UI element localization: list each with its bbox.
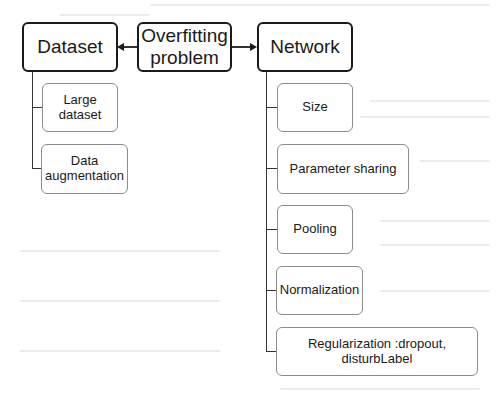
data-augmentation-label: Data augmentation xyxy=(45,154,124,184)
network-connector-3 xyxy=(266,229,277,230)
dataset-node: Dataset xyxy=(22,22,118,72)
dataset-trunk-line xyxy=(32,72,33,169)
network-connector-4 xyxy=(266,290,276,291)
parameter-sharing-node: Parameter sharing xyxy=(277,144,409,194)
network-connector-2 xyxy=(266,168,277,169)
network-connector-5 xyxy=(266,351,276,352)
network-trunk-line xyxy=(266,72,267,352)
network-label: Network xyxy=(270,36,340,58)
regularization-node: Regularization :dropout, disturbLabel xyxy=(276,327,478,376)
dataset-connector-1 xyxy=(32,107,42,108)
dataset-label: Dataset xyxy=(37,36,102,58)
dataset-connector-2 xyxy=(32,168,41,169)
overfitting-problem-node: Overfitting problem xyxy=(137,22,232,72)
overfitting-problem-label: Overfitting problem xyxy=(141,25,228,69)
large-dataset-label: Large dataset xyxy=(59,93,102,123)
size-node: Size xyxy=(277,83,353,132)
parameter-sharing-label: Parameter sharing xyxy=(290,162,397,177)
size-label: Size xyxy=(302,100,327,115)
arrowhead-dataset-icon xyxy=(117,43,124,51)
large-dataset-node: Large dataset xyxy=(42,83,118,132)
arrow-to-network xyxy=(232,46,251,48)
arrowhead-network-icon xyxy=(250,43,257,51)
data-augmentation-node: Data augmentation xyxy=(41,144,128,194)
network-node: Network xyxy=(257,22,353,72)
pooling-label: Pooling xyxy=(293,222,336,237)
network-connector-1 xyxy=(266,107,277,108)
pooling-node: Pooling xyxy=(277,205,353,254)
normalization-label: Normalization xyxy=(280,283,359,298)
regularization-label: Regularization :dropout, disturbLabel xyxy=(308,337,446,367)
normalization-node: Normalization xyxy=(276,266,363,315)
